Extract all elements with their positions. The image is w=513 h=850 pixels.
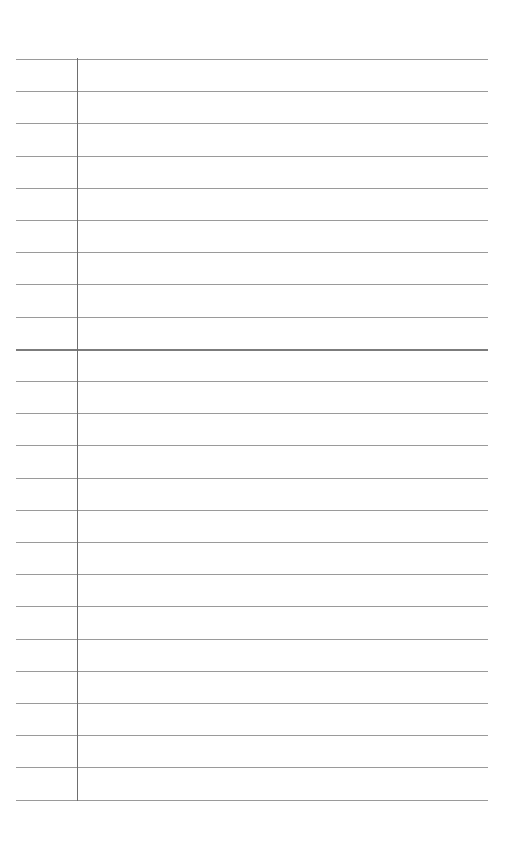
ruled-line bbox=[16, 413, 488, 414]
ruled-line bbox=[16, 574, 488, 575]
ruled-line bbox=[16, 284, 488, 285]
ruled-line bbox=[16, 445, 488, 446]
ruled-line bbox=[16, 478, 488, 479]
ruled-line bbox=[16, 381, 488, 382]
ruled-line bbox=[16, 220, 488, 221]
ruled-line bbox=[16, 349, 488, 351]
margin-line bbox=[77, 58, 78, 801]
ruled-line bbox=[16, 188, 488, 189]
ruled-line bbox=[16, 252, 488, 253]
ruled-line bbox=[16, 606, 488, 607]
ruled-line bbox=[16, 767, 488, 768]
ruled-line bbox=[16, 703, 488, 704]
ruled-line bbox=[16, 735, 488, 736]
ruled-line bbox=[16, 671, 488, 672]
ruled-line bbox=[16, 639, 488, 640]
ruled-line bbox=[16, 59, 488, 60]
ruled-line bbox=[16, 800, 488, 801]
ruled-line bbox=[16, 510, 488, 511]
ruled-line bbox=[16, 123, 488, 124]
ruled-line bbox=[16, 91, 488, 92]
ruled-line bbox=[16, 542, 488, 543]
ruled-line bbox=[16, 156, 488, 157]
ruled-line bbox=[16, 317, 488, 318]
lined-paper-page bbox=[0, 0, 513, 850]
